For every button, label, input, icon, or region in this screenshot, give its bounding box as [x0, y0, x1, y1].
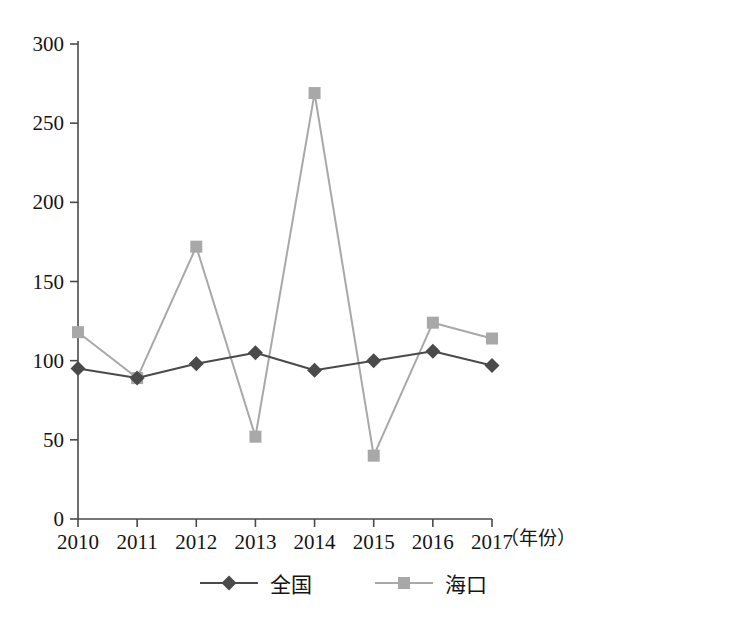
data-point	[309, 87, 321, 99]
data-point	[307, 363, 322, 378]
data-point	[71, 361, 86, 376]
y-axis-labels: 050100150200250300	[33, 32, 65, 531]
y-axis-tick-label: 50	[43, 428, 64, 452]
data-point	[427, 317, 439, 329]
series-haikou	[72, 87, 498, 462]
data-point	[425, 344, 440, 359]
y-axis-tick-label: 0	[54, 507, 65, 531]
data-point	[190, 241, 202, 253]
x-axis-tick-label: 2011	[117, 530, 158, 554]
x-axis-tick-label: 2014	[294, 530, 337, 554]
legend-label: 全国	[270, 573, 312, 597]
chart-legend: 全国海口	[200, 573, 487, 597]
legend-item-national: 全国	[200, 573, 312, 597]
data-point	[366, 353, 381, 368]
data-point	[72, 326, 84, 338]
legend-marker	[222, 576, 237, 591]
x-axis-tick-group	[78, 519, 492, 527]
x-axis-tick-label: 2016	[412, 530, 454, 554]
series-layer	[71, 87, 500, 462]
x-axis-labels: 20102011201220132014201520162017	[57, 530, 513, 554]
data-point	[249, 431, 261, 443]
y-axis-tick-label: 300	[33, 32, 65, 56]
data-point	[486, 333, 498, 345]
legend-item-haikou: 海口	[375, 573, 487, 597]
data-point	[189, 356, 204, 371]
line-chart: 050100150200250300 201020112012201320142…	[0, 0, 729, 624]
data-point	[368, 450, 380, 462]
y-axis-tick-group	[70, 44, 78, 519]
series-national	[71, 344, 500, 386]
x-axis-tick-label: 2010	[57, 530, 99, 554]
x-axis-tick-label: 2013	[234, 530, 276, 554]
data-point	[248, 345, 263, 360]
series-line	[78, 93, 492, 456]
legend-marker	[398, 577, 410, 589]
legend-label: 海口	[445, 573, 487, 597]
data-point	[485, 358, 500, 373]
x-axis-title: （年份）	[500, 527, 576, 549]
x-axis-tick-label: 2012	[175, 530, 217, 554]
y-axis-tick-label: 200	[33, 190, 65, 214]
y-axis-tick-label: 150	[33, 270, 65, 294]
chart-canvas: 050100150200250300 201020112012201320142…	[0, 0, 729, 624]
y-axis-tick-label: 100	[33, 349, 65, 373]
y-axis-tick-label: 250	[33, 111, 65, 135]
x-axis-tick-label: 2015	[353, 530, 395, 554]
